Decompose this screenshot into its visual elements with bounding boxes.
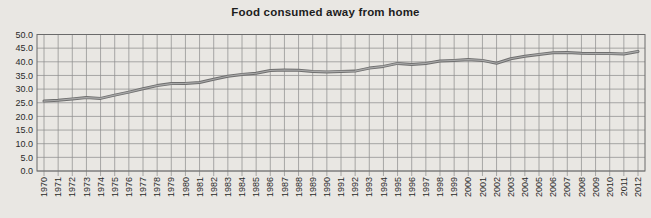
y-axis-tick-label: 35.0 — [15, 71, 33, 81]
x-axis-tick-label: 1971 — [53, 177, 63, 197]
x-axis-tick-label: 1980 — [181, 177, 191, 197]
x-axis-tick-label: 1970 — [39, 177, 49, 197]
y-axis-tick-label: 25.0 — [15, 98, 33, 108]
x-axis-tick-label: 2003 — [506, 177, 516, 197]
x-axis-tick-label: 2008 — [577, 177, 587, 197]
y-axis-tick-label: 20.0 — [15, 112, 33, 122]
y-axis-tick-label: 50.0 — [15, 30, 33, 40]
x-axis-tick-label: 1973 — [82, 177, 92, 197]
x-axis-tick-label: 2009 — [591, 177, 601, 197]
x-axis-tick-label: 1979 — [166, 177, 176, 197]
x-axis-tick-label: 1976 — [124, 177, 134, 197]
chart-svg: 0.05.010.015.020.025.030.035.040.045.050… — [0, 0, 651, 218]
x-axis-tick-label: 1977 — [138, 177, 148, 197]
x-axis-tick-label: 1989 — [308, 177, 318, 197]
x-axis-tick-label: 1986 — [265, 177, 275, 197]
x-axis-tick-label: 1991 — [336, 177, 346, 197]
x-axis-tick-label: 1988 — [294, 177, 304, 197]
x-axis-tick-label: 1997 — [421, 177, 431, 197]
x-axis-tick-label: 1983 — [223, 177, 233, 197]
y-axis-tick-label: 45.0 — [15, 43, 33, 53]
x-axis-tick-label: 1981 — [195, 177, 205, 197]
x-axis-tick-label: 1994 — [379, 177, 389, 197]
x-axis-tick-label: 2002 — [492, 177, 502, 197]
x-axis-tick-label: 1972 — [67, 177, 77, 197]
x-axis-tick-label: 1978 — [152, 177, 162, 197]
x-axis-tick-label: 1995 — [393, 177, 403, 197]
y-axis-tick-label: 5.0 — [20, 153, 33, 163]
x-axis-tick-label: 2011 — [619, 177, 629, 196]
y-axis-tick-label: 30.0 — [15, 84, 33, 94]
x-axis-tick-label: 1974 — [96, 177, 106, 197]
x-axis-tick-label: 2005 — [534, 177, 544, 197]
y-axis-tick-label: 10.0 — [15, 139, 33, 149]
x-axis-tick-label: 2007 — [562, 177, 572, 197]
x-axis-tick-label: 1984 — [237, 177, 247, 197]
y-axis-tick-label: 15.0 — [15, 125, 33, 135]
chart-container: Food consumed away from home 0.05.010.01… — [0, 0, 651, 218]
x-axis-tick-label: 2012 — [633, 177, 643, 197]
x-axis-tick-label: 1982 — [209, 177, 219, 197]
x-axis-tick-label: 1975 — [110, 177, 120, 197]
x-axis-tick-label: 1987 — [280, 177, 290, 197]
x-axis-tick-label: 1985 — [251, 177, 261, 197]
y-axis-tick-label: 40.0 — [15, 57, 33, 67]
x-axis-tick-label: 1992 — [350, 177, 360, 197]
x-axis-tick-label: 1993 — [364, 177, 374, 197]
x-axis-tick-label: 2006 — [548, 177, 558, 197]
x-axis-tick-label: 2010 — [605, 177, 615, 197]
x-axis-tick-label: 2000 — [463, 177, 473, 197]
x-axis-tick-label: 1998 — [435, 177, 445, 197]
y-axis-tick-label: 0.0 — [20, 166, 33, 176]
x-axis-tick-label: 1999 — [449, 177, 459, 197]
x-axis-tick-label: 2001 — [478, 177, 488, 197]
x-axis-tick-label: 2004 — [520, 177, 530, 197]
x-axis-tick-label: 1990 — [322, 177, 332, 197]
x-axis-tick-label: 1996 — [407, 177, 417, 197]
